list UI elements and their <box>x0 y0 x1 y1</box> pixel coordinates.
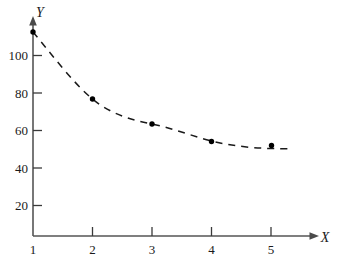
data-point <box>209 139 214 144</box>
x-axis-arrow-icon <box>310 232 320 240</box>
x-tick-label-2: 2 <box>89 242 96 257</box>
y-axis-label: Y <box>36 5 46 20</box>
scatter-plot-figure: 100 80 60 40 20 1 2 3 4 5 Y X <box>0 0 337 274</box>
x-tick-label-4: 4 <box>208 242 215 257</box>
x-tick-label-1: 1 <box>30 242 37 257</box>
data-point <box>30 29 35 34</box>
chart-container: 100 80 60 40 20 1 2 3 4 5 Y X <box>0 0 337 274</box>
x-axis-label: X <box>320 230 330 245</box>
data-point <box>149 121 154 126</box>
y-tick-label-40: 40 <box>15 161 28 176</box>
x-tick-label-3: 3 <box>149 242 156 257</box>
x-tick-label-5: 5 <box>268 242 275 257</box>
y-tick-label-80: 80 <box>15 86 28 101</box>
y-tick-label-100: 100 <box>9 48 29 63</box>
y-tick-label-20: 20 <box>15 198 28 213</box>
fitted-curve <box>33 32 292 149</box>
y-tick-label-60: 60 <box>15 123 28 138</box>
data-point <box>269 143 274 148</box>
data-point <box>90 96 95 101</box>
